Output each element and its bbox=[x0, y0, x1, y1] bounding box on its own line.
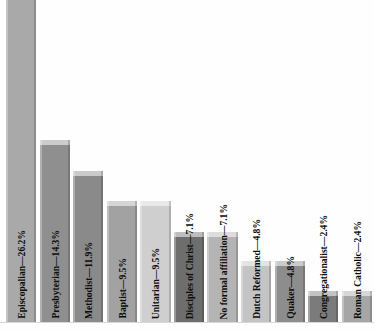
bar-left-highlight bbox=[6, 0, 8, 322]
bar-left-highlight bbox=[342, 291, 344, 322]
bar: Presbyterian—14.3% bbox=[40, 140, 70, 322]
bar-left-highlight bbox=[140, 201, 142, 322]
bar: Methodist—11.9% bbox=[73, 171, 103, 322]
bar-label: Unitarian—9.5% bbox=[150, 248, 161, 319]
bar-left-highlight bbox=[241, 261, 243, 322]
bar-right-shadow bbox=[303, 261, 305, 322]
bar-right-shadow bbox=[236, 232, 238, 322]
bar-left-highlight bbox=[308, 291, 310, 322]
bar-label: Episcopalian—26.2% bbox=[16, 230, 27, 319]
bar-label: Congregationalist—2.4% bbox=[318, 215, 329, 319]
bar-right-shadow bbox=[135, 201, 137, 322]
bar-left-highlight bbox=[107, 201, 109, 322]
bar-left-highlight bbox=[207, 232, 209, 322]
bar-left-highlight bbox=[73, 171, 75, 322]
bar: No formal affiliation—7.1% bbox=[207, 232, 237, 322]
bar-label: Presbyterian—14.3% bbox=[49, 230, 60, 319]
bar-left-highlight bbox=[174, 232, 176, 322]
bar-label: Roman Catholic—2.4% bbox=[351, 221, 362, 319]
bar-label: Baptist—9.5% bbox=[116, 258, 127, 319]
bar-right-shadow bbox=[336, 291, 338, 322]
bar: Unitarian—9.5% bbox=[140, 201, 170, 322]
plot-area: Episcopalian—26.2%Presbyterian—14.3%Meth… bbox=[0, 0, 374, 331]
bar-right-shadow bbox=[169, 201, 171, 322]
baseline-axis bbox=[0, 322, 374, 323]
bar: Dutch Reformed—4.8% bbox=[241, 261, 271, 322]
bar: Disciples of Christ—7.1% bbox=[174, 232, 204, 322]
bar-right-shadow bbox=[370, 291, 372, 322]
bar-right-shadow bbox=[34, 0, 36, 322]
bar-top-bevel bbox=[107, 201, 137, 206]
bar: Congregationalist—2.4% bbox=[308, 291, 338, 322]
bar-right-shadow bbox=[269, 261, 271, 322]
bar-left-highlight bbox=[40, 140, 42, 322]
bar-right-shadow bbox=[101, 171, 103, 322]
bar: Quaker—4.8% bbox=[275, 261, 305, 322]
bar: Roman Catholic—2.4% bbox=[342, 291, 372, 322]
bar-chart: Episcopalian—26.2%Presbyterian—14.3%Meth… bbox=[0, 0, 374, 331]
bar-label: Disciples of Christ—7.1% bbox=[183, 213, 194, 319]
bar-label: No formal affiliation—7.1% bbox=[217, 204, 228, 319]
bar-top-bevel bbox=[40, 140, 70, 145]
bar-label: Methodist—11.9% bbox=[83, 242, 94, 319]
bar-top-bevel bbox=[140, 201, 170, 206]
bar: Episcopalian—26.2% bbox=[6, 0, 36, 322]
bar-top-bevel bbox=[73, 171, 103, 176]
bar-right-shadow bbox=[68, 140, 70, 322]
bar-right-shadow bbox=[202, 232, 204, 322]
bar: Baptist—9.5% bbox=[107, 201, 137, 322]
bar-left-highlight bbox=[275, 261, 277, 322]
bar-label: Quaker—4.8% bbox=[284, 256, 295, 319]
bar-label: Dutch Reformed—4.8% bbox=[251, 219, 262, 319]
